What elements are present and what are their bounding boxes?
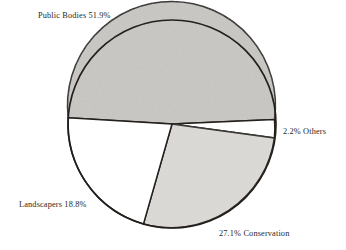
pie-label-others: 2.2% Others: [283, 128, 326, 136]
pie-chart-figure: Public Bodies 51.9% 2.2% Others 27.1% Co…: [0, 0, 346, 250]
pie-label-conservation: 27.1% Conservation: [219, 230, 289, 238]
pie-label-public-bodies: Public Bodies 51.9%: [38, 12, 111, 20]
pie-label-landscapers: Landscapers 18.8%: [19, 201, 87, 209]
pie-chart-canvas: [0, 0, 346, 250]
